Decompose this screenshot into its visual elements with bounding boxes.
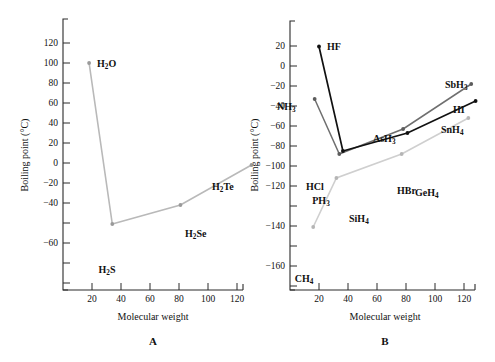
- panel-a-y-ticklabels: 120 100 80 60 40 20 0 −20 −40 −60: [43, 38, 58, 248]
- panel-b-yticklabel: 0: [280, 61, 285, 71]
- data-point-snh4: [466, 116, 470, 120]
- panel-b-x-ticklabels: 20 40 60 80 100 120: [314, 294, 471, 304]
- panel-a-yticklabel: 20: [49, 138, 59, 148]
- panel-b-point-label-nh3: NH3: [277, 101, 296, 114]
- panel-b-point-label-hi: HI: [453, 104, 465, 115]
- panel-a-ylabel: Boiling point (°C): [19, 119, 31, 192]
- panel-a-y-axis: [63, 19, 68, 290]
- panel-a-yticklabel: 100: [44, 58, 59, 68]
- data-point-sbh3: [469, 82, 473, 86]
- panel-b-xticklabel: 120: [457, 294, 472, 304]
- panel-a-series-points: [87, 61, 253, 226]
- panel-a-yticklabel: 80: [49, 78, 59, 88]
- data-point-nh3: [313, 97, 317, 101]
- data-point-h2s: [110, 222, 114, 226]
- data-point-sih4: [335, 176, 339, 180]
- panel-a-xlabel: Molecular weight: [118, 311, 189, 322]
- panel-a-point-label-h2te: H2Te: [212, 181, 234, 194]
- data-point-h2se: [179, 203, 183, 207]
- panel-b-yticklabel: −140: [265, 221, 285, 231]
- data-point-geh4: [400, 152, 404, 156]
- data-point-hbr: [406, 131, 410, 135]
- panel-b-plot: 20 0 −20 −40 −60 −80 −100 −120 −140 −160: [245, 0, 495, 362]
- panel-b-letter: B: [381, 335, 389, 347]
- panel-a-yticklabel: −20: [43, 178, 58, 188]
- data-point-hcl: [341, 149, 345, 153]
- panel-b-xticklabel: 80: [401, 294, 411, 304]
- panel-b-y-axis: [290, 21, 295, 290]
- panel-a-xticklabel: 100: [201, 294, 216, 304]
- panel-b-xticklabel: 60: [372, 294, 382, 304]
- panel-a-group16-hydrides: 120 100 80 60 40 20 0 −20 −40 −60: [0, 0, 250, 362]
- panel-b-yticklabel: 20: [276, 41, 286, 51]
- panel-b-y-ticks: [290, 46, 297, 286]
- panel-b-yticklabel: −20: [270, 81, 285, 91]
- panel-b-y-ticklabels: 20 0 −20 −40 −60 −80 −100 −120 −140 −160: [265, 41, 285, 271]
- data-point-hi: [474, 99, 478, 103]
- panel-a-letter: A: [149, 335, 157, 347]
- panel-b-xticklabel: 100: [428, 294, 443, 304]
- panel-a-yticklabel: 40: [49, 118, 59, 128]
- panel-b-point-label-sbh3: SbH3: [445, 79, 468, 92]
- panel-b-yticklabel: −120: [265, 181, 285, 191]
- panel-b-yticklabel: −60: [270, 121, 285, 131]
- panel-b-point-label-hf: HF: [327, 41, 341, 52]
- panel-b-x-ticks: [319, 283, 464, 290]
- panel-a-yticklabel: −60: [43, 238, 58, 248]
- panel-b-xticklabel: 20: [314, 294, 324, 304]
- data-point-ch4: [311, 225, 315, 229]
- data-point-h2o: [87, 61, 91, 65]
- panel-a-xticklabel: 120: [230, 294, 245, 304]
- panel-b-point-label-snh4: SnH4: [441, 124, 464, 137]
- panel-a-plot: 120 100 80 60 40 20 0 −20 −40 −60: [0, 0, 250, 362]
- panel-a-point-label-h2se: H2Se: [185, 228, 207, 241]
- panel-b-point-label-sih4: SiH4: [349, 213, 369, 226]
- panel-a-xticklabel: 40: [116, 294, 126, 304]
- panel-b-yticklabel: −100: [265, 161, 285, 171]
- boiling-point-figure: 120 100 80 60 40 20 0 −20 −40 −60: [0, 0, 495, 362]
- panel-b-ylabel: Boiling point (°C): [249, 119, 261, 192]
- panel-a-point-label-h2o: H2O: [97, 58, 116, 71]
- panel-a-yticklabel: 0: [53, 158, 58, 168]
- panel-b-point-label-geh4: GeH4: [415, 187, 439, 200]
- panel-b-point-label-hcl: HCl: [306, 181, 324, 192]
- panel-b-point-label-ch4: CH4: [295, 273, 314, 286]
- panel-a-point-label-h2s: H2S: [99, 264, 116, 277]
- panel-b-point-label-ash3: AsH3: [373, 133, 396, 146]
- data-point-ash3: [401, 127, 405, 131]
- data-point-ph3: [337, 152, 341, 156]
- panel-b-yticklabel: −80: [270, 141, 285, 151]
- panel-a-x-ticks: [92, 283, 237, 290]
- panel-a-yticklabel: −40: [43, 198, 58, 208]
- panel-b-yticklabel: −160: [265, 261, 285, 271]
- panel-a-xticklabel: 60: [145, 294, 155, 304]
- panel-b-xlabel: Molecular weight: [350, 311, 421, 322]
- data-point-hf: [317, 45, 321, 49]
- panel-a-series-line: [89, 63, 251, 224]
- panel-a-yticklabel: 60: [49, 98, 59, 108]
- panel-a-y-ticks: [63, 43, 70, 283]
- panel-a-x-ticklabels: 20 40 60 80 100 120: [87, 294, 244, 304]
- panel-a-yticklabel: 120: [44, 38, 59, 48]
- panel-b-series-line-group17: [319, 47, 476, 152]
- panel-a-xticklabel: 20: [87, 294, 97, 304]
- panel-b-group14-15-17-hydrides: 20 0 −20 −40 −60 −80 −100 −120 −140 −160: [245, 0, 495, 362]
- panel-b-point-label-hbr: HBr: [397, 185, 416, 196]
- panel-b-xticklabel: 40: [343, 294, 353, 304]
- panel-a-xticklabel: 80: [174, 294, 184, 304]
